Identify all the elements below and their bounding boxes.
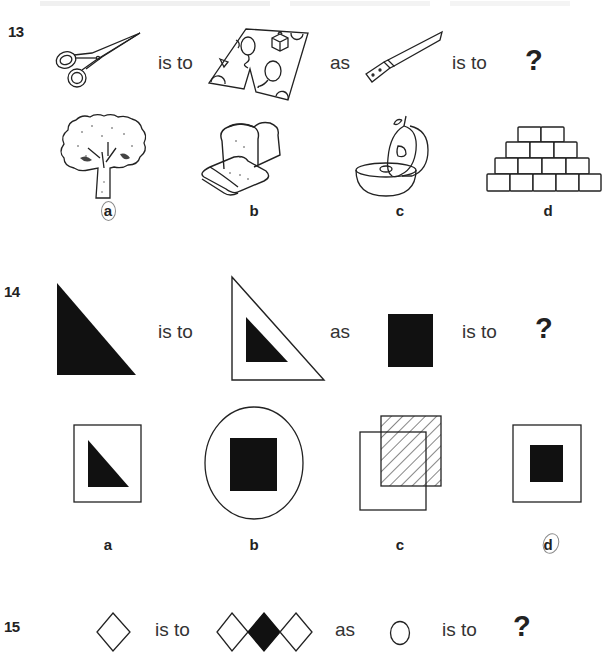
black-right-triangle-icon xyxy=(56,282,138,376)
option-label: b xyxy=(244,202,264,219)
patterned-shorts-icon xyxy=(206,26,310,102)
page-bleed-through xyxy=(0,0,603,10)
bread-loaf-icon xyxy=(196,115,286,197)
triangle-in-square-icon xyxy=(73,424,143,504)
relation-text: is to xyxy=(158,52,193,74)
unknown-question-mark: ? xyxy=(513,610,531,643)
relation-text: is to xyxy=(442,619,477,641)
black-square-in-square-icon xyxy=(512,424,583,504)
diamond-outline-icon xyxy=(96,612,132,652)
tree-icon xyxy=(62,112,152,204)
relation-text: is to xyxy=(452,52,487,74)
option-label: b xyxy=(244,536,264,553)
relation-text: is to xyxy=(462,321,497,343)
option-label: d xyxy=(538,202,558,219)
option-label: c xyxy=(390,202,410,219)
connector-text: as xyxy=(330,321,350,343)
option-label: c xyxy=(390,536,410,553)
question-number: 13 xyxy=(8,23,24,40)
question-number: 15 xyxy=(4,618,20,635)
circle-outline-icon xyxy=(389,620,411,646)
question-number: 14 xyxy=(4,283,20,300)
three-diamonds-middle-black-icon xyxy=(216,612,314,652)
scissors-icon xyxy=(52,30,144,92)
relation-text: is to xyxy=(158,321,193,343)
overlapping-squares-hatched-icon xyxy=(359,414,443,512)
option-label: a xyxy=(98,536,118,553)
black-square-icon xyxy=(388,314,434,368)
unknown-question-mark: ? xyxy=(535,312,553,345)
triangle-inside-outline-triangle-icon xyxy=(231,276,326,382)
square-in-circle-icon xyxy=(204,406,304,520)
knife-icon xyxy=(362,30,446,88)
pencil-circle-mark xyxy=(101,201,116,221)
unknown-question-mark: ? xyxy=(525,44,543,77)
connector-text: as xyxy=(330,52,350,74)
brick-pyramid-icon xyxy=(486,125,602,193)
connector-text: as xyxy=(335,619,355,641)
relation-text: is to xyxy=(155,619,190,641)
cut-apple-icon xyxy=(352,112,442,200)
